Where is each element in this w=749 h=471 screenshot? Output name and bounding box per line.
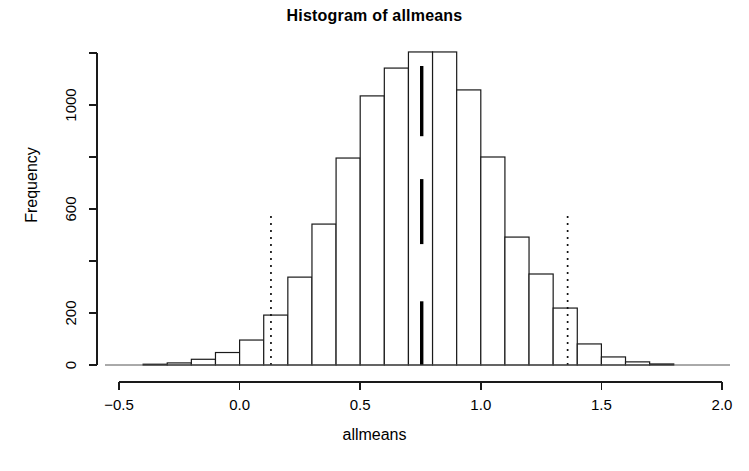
histogram-bar bbox=[215, 353, 239, 365]
histogram-bars bbox=[143, 52, 674, 365]
histogram-bar bbox=[433, 52, 457, 365]
x-tick-label: −0.5 bbox=[104, 396, 134, 413]
histogram-bar bbox=[481, 157, 505, 365]
histogram-bar bbox=[240, 340, 264, 365]
y-tick-label-text: 0 bbox=[62, 361, 79, 369]
y-tick-label: 200 bbox=[57, 305, 82, 322]
x-tick-label: 1.5 bbox=[591, 396, 612, 413]
x-tick-label: 0.0 bbox=[229, 396, 250, 413]
histogram-bar bbox=[457, 90, 481, 365]
y-tick-label: 1000 bbox=[53, 97, 86, 114]
y-tick-label-text: 600 bbox=[62, 196, 79, 221]
histogram-bar bbox=[191, 359, 215, 365]
y-tick-label-text: 1000 bbox=[62, 88, 79, 121]
histogram-bar bbox=[384, 68, 408, 365]
histogram-bar bbox=[529, 274, 553, 365]
histogram-bar bbox=[264, 315, 288, 365]
histogram-figure: Histogram of allmeans Frequency allmeans… bbox=[0, 0, 749, 471]
x-tick-label: 2.0 bbox=[712, 396, 733, 413]
y-tick-label: 0 bbox=[66, 357, 74, 374]
histogram-bar bbox=[312, 224, 336, 365]
histogram-bar bbox=[336, 158, 360, 365]
histogram-bar bbox=[577, 344, 601, 365]
y-tick-label-text: 200 bbox=[62, 300, 79, 325]
x-tick-label: 1.0 bbox=[470, 396, 491, 413]
histogram-bar bbox=[601, 357, 625, 365]
y-tick-label: 600 bbox=[57, 201, 82, 218]
histogram-bar bbox=[553, 308, 577, 365]
histogram-bar bbox=[288, 277, 312, 365]
histogram-bar bbox=[505, 237, 529, 365]
histogram-bar bbox=[360, 96, 384, 365]
x-tick-label: 0.5 bbox=[350, 396, 371, 413]
